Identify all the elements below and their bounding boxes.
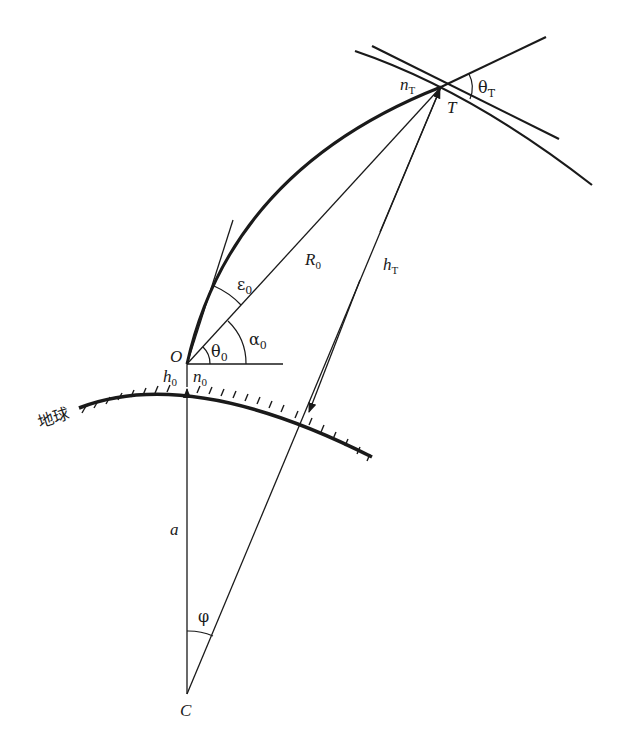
hT-arrow-to-earth	[309, 280, 360, 412]
label-n0: n0	[193, 367, 208, 388]
label-T: T	[447, 98, 458, 117]
theta0-arc	[203, 347, 210, 364]
label-earth: 地球	[35, 404, 71, 432]
label-theta0: θ0	[211, 342, 228, 364]
label-C: C	[180, 701, 192, 720]
label-phi: φ	[198, 607, 209, 626]
earth-surface	[79, 385, 372, 461]
label-R0: R0	[304, 250, 321, 271]
label-epsilon0: ε0	[237, 275, 252, 297]
phi-arc	[187, 631, 213, 636]
refraction-diagram: O T C a R0 hT h0 n0 nT θ0 α0 ε0 θT φ 地球	[0, 0, 633, 756]
label-a: a	[170, 520, 179, 539]
label-O: O	[170, 347, 182, 366]
label-thetaT: θT	[478, 78, 496, 100]
label-hT: hT	[383, 255, 399, 276]
line-R0	[187, 87, 441, 364]
label-alpha0: α0	[249, 330, 267, 352]
alpha0-arc	[228, 321, 246, 364]
label-nT: nT	[400, 75, 416, 96]
ray-continuation-at-T	[441, 37, 546, 87]
label-h0: h0	[163, 367, 178, 388]
